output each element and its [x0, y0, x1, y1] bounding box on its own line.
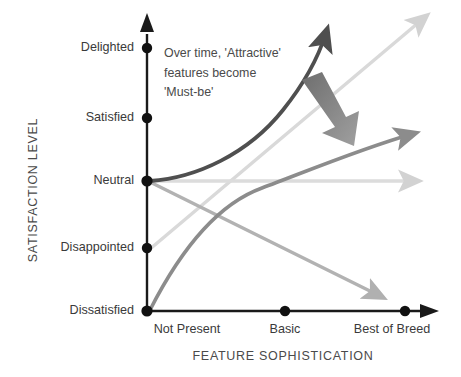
- y-tick-disappointed: Disappointed: [0, 240, 134, 256]
- series-must-be-curve: [150, 134, 412, 310]
- y-tick-label: Delighted: [8, 40, 134, 54]
- annotation-line-2: features become: [164, 64, 320, 84]
- annotation-line-1: Over time, 'Attractive': [164, 44, 320, 64]
- y-tick-dissatisfied: Dissatisfied: [0, 303, 134, 319]
- evolution-annotation: Over time, 'Attractive' features become …: [164, 44, 320, 103]
- kano-model-diagram: Delighted Satisfied Neutral Disappointed…: [0, 0, 461, 377]
- x-tick-best-of-breed: Best of Breed: [354, 322, 430, 336]
- y-tick-satisfied: Satisfied: [0, 110, 134, 126]
- y-axis-title: SATISFACTION LEVEL: [26, 95, 40, 285]
- series-reverse-line: [150, 182, 380, 296]
- x-tick-not-present: Not Present: [154, 322, 221, 336]
- x-tick-basic: Basic: [270, 322, 301, 336]
- x-axis: [147, 304, 439, 318]
- y-tick-label: Dissatisfied: [8, 303, 134, 317]
- annotation-line-3: 'Must-be': [164, 83, 320, 103]
- y-axis: [140, 13, 154, 311]
- y-tick-delighted: Delighted: [0, 40, 134, 56]
- y-tick-neutral: Neutral: [0, 173, 134, 189]
- x-axis-title: FEATURE SOPHISTICATION: [148, 349, 418, 363]
